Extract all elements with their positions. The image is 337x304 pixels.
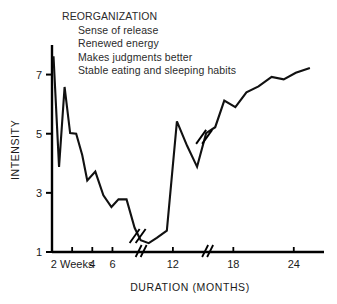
intensity-data-line xyxy=(54,56,310,243)
y-tick-label: 3 xyxy=(36,187,42,199)
annotation-item-2: Makes judgments better xyxy=(78,51,236,65)
x-tick-label: 4 xyxy=(89,258,95,270)
chart-container: 1357 2 Weeks46121824 INTENSITY DURATION … xyxy=(0,0,337,304)
x-tick-label: 2 Weeks xyxy=(51,258,94,270)
y-tick-label: 1 xyxy=(36,246,42,258)
annotation-item-3: Stable eating and sleeping habits xyxy=(78,64,236,78)
y-tick-label: 7 xyxy=(36,69,42,81)
x-tick-label: 6 xyxy=(109,258,115,270)
y-tick-label: 5 xyxy=(36,128,42,140)
annotation-block: REORGANIZATION Sense of release Renewed … xyxy=(62,10,236,78)
annotation-item-0: Sense of release xyxy=(78,24,236,38)
y-axis-title: INTENSITY xyxy=(9,120,21,180)
y-axis-ticks: 1357 xyxy=(36,69,52,258)
x-tick-label: 12 xyxy=(167,258,179,270)
x-axis-ticks: 2 Weeks46121824 xyxy=(51,247,300,270)
x-tick-label: 18 xyxy=(227,258,239,270)
x-tick-label: 24 xyxy=(288,258,300,270)
x-axis-title: DURATION (MONTHS) xyxy=(130,281,250,293)
annotation-item-1: Renewed energy xyxy=(78,37,236,51)
annotation-title: REORGANIZATION xyxy=(62,10,236,24)
